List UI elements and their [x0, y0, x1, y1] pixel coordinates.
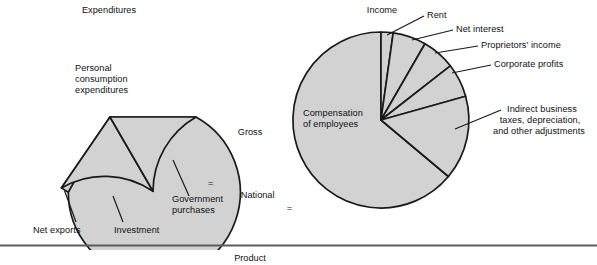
- label-proprietors-income: Proprietors' income: [481, 40, 561, 51]
- label-investment: Investment: [114, 225, 159, 236]
- equals-right: =: [287, 202, 292, 215]
- label-rent: Rent: [427, 10, 447, 21]
- gnp-equation-national: National: [241, 190, 275, 200]
- gnp-equation: Gross = National = Product: [206, 101, 294, 265]
- gnp-equation-line-gross: Gross: [206, 126, 294, 139]
- gnp-equation-line-product: Product: [206, 252, 294, 265]
- label-compensation-line1: Compensation: [303, 108, 363, 119]
- label-indirect-line3: and other adjustments: [481, 126, 597, 137]
- income-heading: Income: [352, 5, 412, 16]
- expenditures-heading: Expenditures: [44, 5, 174, 16]
- label-personal-consumption-line1: Personal: [75, 63, 112, 74]
- gnp-equation-line-national: = National =: [206, 164, 294, 227]
- equals-left: =: [208, 177, 213, 190]
- label-net-interest: Net interest: [456, 24, 504, 35]
- leader-rent: [387, 16, 424, 35]
- label-net-exports: Net exports: [33, 225, 81, 236]
- label-indirect-line1: Indirect business: [488, 104, 596, 115]
- label-corporate-profits: Corporate profits: [494, 59, 563, 70]
- label-indirect-line2: taxes, depreciation,: [484, 115, 596, 126]
- leader-corporate-profits: [452, 65, 491, 73]
- label-compensation-line2: of employees: [303, 119, 358, 130]
- leader-proprietors-income: [435, 46, 478, 53]
- label-personal-consumption-line3: expenditures: [75, 85, 128, 96]
- leader-net-interest: [412, 30, 453, 40]
- label-personal-consumption-line2: consumption: [75, 74, 128, 85]
